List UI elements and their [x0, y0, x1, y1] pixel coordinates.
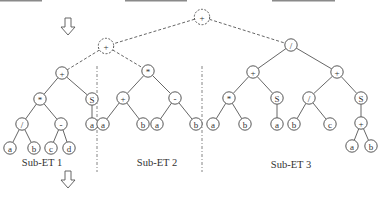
- tree-node-e2: *: [142, 65, 154, 77]
- node-symbol: +: [358, 119, 363, 129]
- node-symbol: a: [155, 120, 159, 130]
- node-symbol: *: [227, 94, 232, 104]
- down-arrow-icon-top: [61, 18, 75, 35]
- node-symbol: *: [38, 95, 43, 105]
- tree-edge: [313, 103, 326, 119]
- tree-node-e1c: c: [45, 142, 57, 154]
- tree-edge: [127, 103, 139, 119]
- tree-edge: [25, 130, 31, 143]
- tree-edge: [209, 19, 285, 43]
- tree-edge: [63, 130, 67, 142]
- tree-node-e1dd: d: [63, 142, 75, 154]
- node-symbol: b: [292, 120, 297, 130]
- node-symbol: -: [60, 120, 63, 130]
- tree-node-e3r: +: [331, 66, 343, 78]
- tree-node-mid: +: [98, 38, 113, 53]
- tree-edge: [67, 77, 88, 95]
- tree-node-e3c: c: [324, 118, 336, 130]
- tree-node-e1b: b: [28, 142, 40, 154]
- tree-node-e1d: /: [16, 118, 28, 130]
- tree-node-e1a: a: [4, 142, 16, 154]
- tree-edge: [363, 129, 368, 141]
- tree-node-e3l: +: [247, 66, 259, 78]
- tree-edge: [232, 103, 242, 118]
- node-symbol: b: [141, 120, 146, 130]
- tree-node-root: +: [194, 9, 209, 24]
- tree-edge: [13, 130, 19, 143]
- top-bar-middle: [125, 0, 187, 2]
- tree-node-e2a2: a: [151, 118, 163, 130]
- tree-nodes: +++*S/-aabcd*+-abab/++*S/Sababc+ab: [4, 9, 377, 154]
- node-symbol: +: [334, 68, 339, 78]
- tree-edge: [314, 76, 333, 94]
- node-symbol: +: [250, 68, 255, 78]
- tree-edge: [161, 103, 172, 119]
- tree-edge: [216, 103, 226, 118]
- tree-node-e2b2: b: [190, 118, 202, 130]
- sub-et-3-label: Sub-ET 3: [271, 159, 311, 170]
- tree-edge: [107, 103, 119, 119]
- tree-node-e1sa: a: [86, 118, 98, 130]
- top-bar-left: [0, 0, 42, 2]
- node-symbol: S: [358, 94, 363, 104]
- tree-edge: [26, 104, 37, 119]
- node-symbol: b: [243, 120, 248, 130]
- tree-edge: [341, 77, 357, 94]
- tree-node-e3rd: /: [303, 92, 315, 104]
- node-symbol: -: [174, 94, 177, 104]
- tree-node-e3a2: a: [271, 118, 283, 130]
- tree-node-e2a1: a: [97, 118, 109, 130]
- node-symbol: +: [199, 13, 204, 23]
- node-symbol: c: [328, 120, 332, 130]
- sub-et-2-label: Sub-ET 2: [137, 157, 177, 168]
- node-symbol: a: [101, 120, 105, 130]
- top-bar-right: [272, 0, 335, 2]
- tree-edge: [67, 50, 99, 70]
- node-symbol: a: [350, 142, 354, 152]
- top-bars: [0, 0, 335, 2]
- node-symbol: c: [49, 144, 53, 154]
- node-symbol: a: [8, 144, 12, 154]
- tree-edge: [296, 48, 331, 69]
- node-symbol: S: [89, 95, 94, 105]
- tree-node-e3b3: b: [365, 140, 377, 152]
- tree-edge: [53, 130, 58, 143]
- node-symbol: S: [274, 94, 279, 104]
- node-symbol: +: [120, 94, 125, 104]
- down-arrow-icon-bottom: [61, 171, 75, 188]
- tree-edge: [44, 104, 57, 120]
- node-symbol: a: [211, 120, 215, 130]
- tree-node-e1s: S: [86, 93, 98, 105]
- tree-edge: [354, 129, 358, 140]
- tree-node-e1: +: [56, 67, 68, 79]
- tree-edge: [112, 19, 195, 44]
- tree-node-e3b2: b: [288, 118, 300, 130]
- tree-node-e2b1: b: [137, 118, 149, 130]
- expression-tree-diagram: +++*S/-aabcd*+-abab/++*S/Sababc+ab Sub-E…: [0, 0, 381, 199]
- node-symbol: +: [103, 42, 108, 52]
- node-symbol: b: [369, 142, 374, 152]
- tree-node-e3: /: [285, 39, 297, 51]
- tree-edge: [257, 77, 273, 94]
- tree-node-e3a3: a: [346, 140, 358, 152]
- tree-node-e3b1: b: [239, 118, 251, 130]
- node-symbol: *: [146, 67, 151, 77]
- tree-edge: [127, 76, 144, 94]
- tree-node-e1n: -: [55, 118, 67, 130]
- tree-edge: [258, 49, 286, 69]
- node-symbol: b: [194, 120, 199, 130]
- tree-node-e3p: +: [355, 117, 367, 129]
- tree-node-e2p: +: [117, 92, 129, 104]
- node-symbol: b: [32, 144, 37, 154]
- tree-edge: [113, 50, 143, 68]
- tree-node-e3lm: *: [223, 92, 235, 104]
- tree-node-e3rs: S: [355, 92, 367, 104]
- tree-node-e3a1: a: [207, 118, 219, 130]
- tree-edge: [44, 78, 58, 95]
- tree-edge: [179, 103, 192, 119]
- node-symbol: d: [67, 144, 72, 154]
- node-symbol: a: [90, 120, 94, 130]
- node-symbol: a: [275, 120, 279, 130]
- tree-edge: [152, 75, 170, 93]
- node-symbol: +: [59, 69, 64, 79]
